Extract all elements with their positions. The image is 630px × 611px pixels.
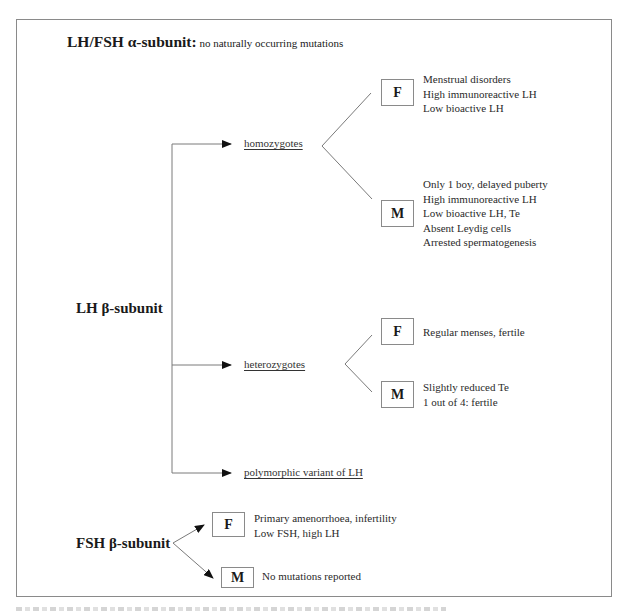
finding: Slightly reduced Te (423, 380, 509, 395)
heterozygotes-female-findings: Regular menses, fertile (423, 325, 525, 340)
alpha-subunit-note: no naturally occurring mutations (197, 37, 344, 49)
fsh-female-box: F (212, 512, 245, 537)
fsh-male-findings: No mutations reported (262, 569, 361, 584)
homozygotes-female-box: F (381, 79, 414, 106)
homozygotes-male-findings: Only 1 boy, delayed puberty High immunor… (423, 177, 548, 250)
heterozygotes-female-box: F (381, 318, 414, 345)
heterozygotes-male-findings: Slightly reduced Te 1 out of 4: fertile (423, 380, 509, 409)
finding: Arrested spermatogenesis (423, 235, 548, 250)
homozygotes-male-box: M (381, 200, 414, 227)
finding: Low bioactive LH (423, 101, 537, 116)
finding: Low FSH, high LH (254, 526, 397, 541)
lh-beta-subunit-label: LH β-subunit (76, 300, 163, 317)
finding: Menstrual disorders (423, 72, 537, 87)
finding: High immunoreactive LH (423, 192, 548, 207)
fsh-male-box: M (221, 567, 254, 588)
fsh-beta-subunit-label: FSH β-subunit (76, 535, 170, 552)
finding: 1 out of 4: fertile (423, 395, 509, 410)
branch-polymorphic-variant: polymorphic variant of LH (244, 466, 363, 478)
alpha-subunit-label: LH/FSH α-subunit (67, 33, 192, 50)
finding: Absent Leydig cells (423, 221, 548, 236)
fsh-fork (173, 525, 213, 578)
heterozygotes-male-box: M (381, 381, 414, 408)
branch-homozygotes: homozygotes (244, 137, 303, 149)
fsh-female-findings: Primary amenorrhoea, infertility Low FSH… (254, 511, 397, 540)
branch-heterozygotes: heterozygotes (244, 358, 305, 370)
heterozygotes-fork (345, 335, 372, 392)
alpha-subunit-heading: LH/FSH α-subunit: no naturally occurring… (67, 33, 343, 51)
finding: Low bioactive LH, Te (423, 206, 548, 221)
finding: No mutations reported (262, 569, 361, 584)
finding: High immunoreactive LH (423, 87, 537, 102)
homozygotes-fork (322, 93, 372, 199)
finding: Regular menses, fertile (423, 325, 525, 340)
finding: Only 1 boy, delayed puberty (423, 177, 548, 192)
finding: Primary amenorrhoea, infertility (254, 511, 397, 526)
homozygotes-female-findings: Menstrual disorders High immunoreactive … (423, 72, 537, 116)
figure-caption-cropped (16, 607, 446, 611)
lh-beta-trunk (172, 144, 231, 473)
